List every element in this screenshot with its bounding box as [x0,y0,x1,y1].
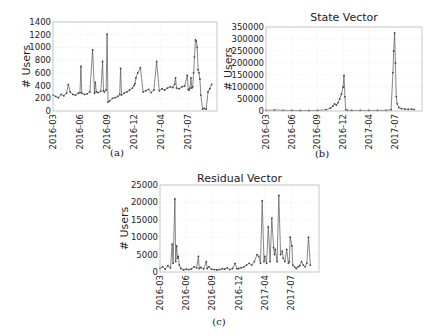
data-point [334,103,336,105]
y-tick-label: 150000 [232,70,264,80]
data-point [288,262,290,264]
x-tick-label: 2017-07 [183,114,193,150]
data-point [197,69,199,71]
data-point [188,89,190,91]
data-point [196,47,198,49]
y-tick-label: 10000 [131,232,158,242]
data-point [133,85,135,87]
data-point [69,91,71,93]
data-point [394,32,396,34]
y-tick-label: 300000 [232,34,264,44]
data-point [102,61,104,63]
data-point [306,262,308,264]
panel-caption: (a) [110,147,124,158]
data-point [164,268,166,270]
x-tick-label: 2016-03 [155,275,165,311]
data-point [205,108,207,110]
data-point [156,61,158,63]
x-tick-label: 2016-06 [75,114,85,150]
data-point [75,94,77,96]
data-point [126,91,128,93]
data-point [191,268,193,270]
data-point [284,261,286,263]
data-point [203,268,205,270]
data-point [200,267,202,269]
data-point [134,83,136,85]
data-point [172,87,174,89]
x-tick-label: 2016-03 [261,114,271,150]
y-tick-label: 400 [35,81,51,91]
data-point [183,269,185,271]
data-point [161,88,163,90]
panel-c: 05000100001500020000250002016-032016-062… [118,172,319,327]
data-point [344,96,346,98]
data-point [288,261,290,263]
data-point [325,109,327,111]
data-point [395,96,397,98]
figure: 02004006008001000120014002016-032016-062… [0,0,445,336]
data-point [184,85,186,87]
data-point [142,91,144,93]
data-point [189,87,191,89]
data-point [205,261,207,263]
data-point [194,56,196,58]
data-point [66,92,68,94]
data-point [302,264,304,266]
y-tick-label: 100000 [232,82,264,92]
data-point [198,255,200,257]
data-point [123,92,125,94]
data-point [332,105,334,107]
data-point [172,262,174,264]
y-tick-label: 600 [35,68,51,78]
data-point [120,68,122,70]
data-point [211,83,213,85]
data-point [240,267,242,269]
x-tick-label: 2016-06 [181,275,191,311]
data-point [84,94,86,96]
data-point [251,264,253,266]
data-point [95,91,97,93]
data-point [192,86,194,88]
y-axis-label: # Users [20,44,33,88]
y-tick-label: 25000 [131,180,158,190]
data-point [276,261,278,263]
data-point [267,226,269,228]
data-point [258,255,260,257]
data-point [280,254,282,256]
data-point [269,261,271,263]
data-point [92,49,94,51]
data-point [274,248,276,250]
data-point [213,269,215,271]
data-point [398,107,400,109]
data-point [234,262,236,264]
data-point [81,92,83,94]
data-point [180,268,182,270]
data-point [100,90,102,92]
data-point [401,108,403,110]
data-point [248,262,250,264]
data-point [308,236,310,238]
y-tick-label: 20000 [131,197,158,207]
data-point [167,265,169,267]
data-point [79,92,81,94]
data-point [243,266,245,268]
data-point [281,250,283,252]
data-point [299,265,301,267]
data-point [80,66,82,68]
x-tick-label: 2016-12 [129,114,139,150]
data-point [329,107,331,109]
series-line [53,34,212,109]
y-tick-label: 5000 [136,250,158,260]
data-point [342,86,344,88]
data-point [176,245,178,247]
data-point [175,77,177,79]
data-point [181,86,183,88]
data-point [221,268,223,270]
data-point [185,268,187,270]
data-point [404,108,406,110]
data-point [278,195,280,197]
plot-frame [53,22,217,111]
data-point [89,91,91,93]
data-point [177,257,179,259]
data-point [256,254,258,256]
